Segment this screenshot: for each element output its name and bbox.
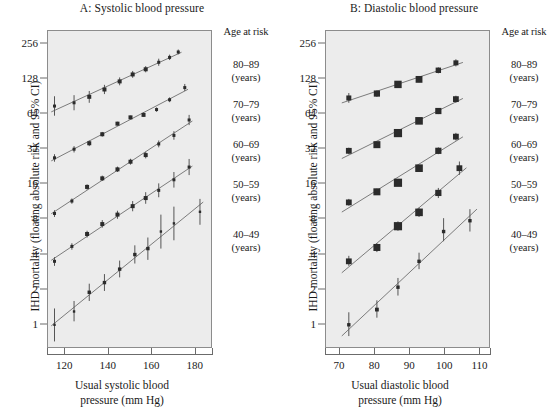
- y-tick-mark: [318, 183, 325, 184]
- panel-a-plot-area: [47, 30, 212, 348]
- y-tick-mark: [40, 218, 47, 219]
- panel-b-data-layer: [326, 31, 491, 349]
- x-tick-mark: [64, 348, 65, 354]
- y-tick-label: 16: [305, 177, 316, 189]
- y-tick-mark: [318, 253, 325, 254]
- series-group: [51, 199, 203, 342]
- y-tick-label: 32: [305, 142, 316, 154]
- panel-a-xaxis-label-line2: pressure (mm Hg): [80, 394, 164, 406]
- y-tick-mark: [318, 148, 325, 149]
- y-tick-label: 256: [22, 37, 39, 49]
- y-tick-mark: [318, 218, 325, 219]
- legend-age-unit: (years): [493, 71, 555, 84]
- legend-item-age-40-49: 40–49(years): [493, 228, 555, 254]
- x-tick-label: 160: [143, 359, 160, 371]
- y-tick-label: 256: [300, 37, 317, 49]
- x-tick-label: 110: [471, 359, 487, 371]
- x-tick-label: 180: [186, 359, 203, 371]
- figure-ihd-mortality-bp: A: Systolic blood pressure IHD mortality…: [0, 0, 556, 420]
- panel-b-legend: Age at risk 80–89(years)70–79(years)60–6…: [493, 26, 555, 37]
- panel-a-plot-inner: [48, 31, 211, 347]
- y-tick-mark: [318, 77, 325, 78]
- y-tick-label: 64: [305, 107, 316, 119]
- y-tick-mark: [318, 288, 325, 289]
- panel-a-legend: Age at risk 80–89(years)70–79(years)60–6…: [215, 26, 277, 37]
- x-tick-label: 140: [100, 359, 117, 371]
- y-tick-label: 16: [27, 177, 38, 189]
- y-tick-label: 1: [311, 318, 317, 330]
- x-tick-label: 70: [334, 359, 345, 371]
- y-tick-mark: [40, 253, 47, 254]
- legend-age-unit: (years): [493, 151, 555, 164]
- x-axis-end-cap: [47, 348, 48, 354]
- panel-b-plot-area: [325, 30, 490, 348]
- panel-systolic: A: Systolic blood pressure IHD mortality…: [0, 0, 278, 420]
- y-tick-mark: [318, 113, 325, 114]
- series-group: [342, 59, 463, 103]
- x-axis-end-cap: [325, 348, 326, 354]
- panel-a-yaxis: 1248163264128256: [0, 30, 47, 350]
- y-tick-label: 2: [33, 283, 39, 295]
- legend-age-range: 60–69: [493, 138, 555, 151]
- series-group: [51, 115, 192, 217]
- legend-age-range: 40–49: [215, 228, 277, 241]
- y-tick-label: 32: [27, 142, 38, 154]
- panel-b-xaxis-label-line1: Usual diastolic blood: [351, 379, 449, 391]
- panel-b-yaxis: 1248163264128256: [278, 30, 325, 350]
- legend-item-age-80-89: 80–89(years): [215, 58, 277, 84]
- series-group: [342, 209, 477, 336]
- y-tick-label: 4: [311, 248, 317, 260]
- y-tick-mark: [40, 42, 47, 43]
- legend-age-range: 60–69: [215, 138, 277, 151]
- y-tick-label: 8: [33, 212, 39, 224]
- legend-age-range: 50–59: [493, 178, 555, 191]
- legend-title: Age at risk: [493, 26, 555, 37]
- y-tick-mark: [40, 288, 47, 289]
- y-tick-mark: [40, 148, 47, 149]
- x-tick-mark: [151, 348, 152, 354]
- series-group: [342, 133, 463, 212]
- y-tick-label: 1: [33, 318, 39, 330]
- y-tick-label: 2: [311, 283, 317, 295]
- x-tick-mark: [339, 348, 340, 354]
- series-group: [51, 50, 181, 116]
- panel-b-xaxis-label-line2: pressure (mm Hg): [358, 394, 442, 406]
- series-group: [51, 84, 188, 162]
- x-axis-end-cap: [212, 348, 213, 354]
- legend-age-unit: (years): [493, 241, 555, 254]
- legend-age-unit: (years): [215, 151, 277, 164]
- legend-item-age-50-59: 50–59(years): [493, 178, 555, 204]
- panel-b-title: B: Diastolic blood pressure: [278, 2, 556, 14]
- legend-age-unit: (years): [493, 111, 555, 124]
- panel-b-xaxis-line: [325, 354, 491, 355]
- x-tick-mark: [108, 348, 109, 354]
- legend-age-range: 80–89: [493, 58, 555, 71]
- x-tick-mark: [444, 348, 445, 354]
- legend-age-unit: (years): [493, 191, 555, 204]
- panel-b-plot-inner: [326, 31, 489, 347]
- legend-title: Age at risk: [215, 26, 277, 37]
- legend-item-age-40-49: 40–49(years): [215, 228, 277, 254]
- x-tick-label: 90: [404, 359, 415, 371]
- y-tick-label: 128: [300, 72, 317, 84]
- legend-age-unit: (years): [215, 241, 277, 254]
- legend-age-range: 40–49: [493, 228, 555, 241]
- legend-age-range: 70–79: [493, 98, 555, 111]
- x-tick-mark: [479, 348, 480, 354]
- y-tick-mark: [318, 323, 325, 324]
- panel-a-title: A: Systolic blood pressure: [0, 2, 278, 14]
- y-tick-mark: [40, 113, 47, 114]
- legend-item-age-60-69: 60–69(years): [215, 138, 277, 164]
- legend-age-unit: (years): [215, 191, 277, 204]
- panel-b-xaxis-label: Usual diastolic blood pressure (mm Hg): [300, 378, 500, 408]
- legend-item-age-60-69: 60–69(years): [493, 138, 555, 164]
- panel-a-xaxis-label: Usual systolic blood pressure (mm Hg): [22, 378, 222, 408]
- y-tick-mark: [40, 77, 47, 78]
- y-tick-label: 8: [311, 212, 317, 224]
- series-group: [51, 159, 192, 266]
- series-group: [342, 96, 463, 159]
- y-tick-mark: [40, 183, 47, 184]
- y-tick-label: 64: [27, 107, 38, 119]
- panel-a-data-layer: [48, 31, 213, 349]
- y-tick-mark: [40, 323, 47, 324]
